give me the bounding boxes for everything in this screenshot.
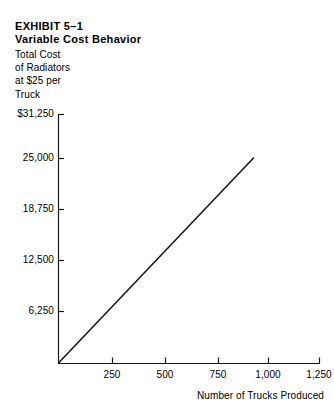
exhibit-figure: EXHIBIT 5–1 Variable Cost Behavior Total… [0, 0, 334, 416]
y-tick-label-12500: 12,500 [6, 254, 54, 265]
y-tick-label-6250: 6,250 [6, 305, 54, 316]
x-tick-label-250: 250 [87, 369, 137, 380]
variable-cost-line [59, 158, 255, 364]
x-tick-label-1250: 1,250 [294, 369, 334, 380]
y-tick-label-25000: 25,000 [6, 152, 54, 163]
y-tick-label-31250: $31,250 [6, 108, 54, 119]
x-tick-label-500: 500 [140, 369, 190, 380]
x-tick-label-1000: 1,000 [243, 369, 293, 380]
x-axis-title: Number of Trucks Produced [197, 390, 324, 401]
y-tick-label-18750: 18,750 [6, 203, 54, 214]
x-tick-label-750: 750 [193, 369, 243, 380]
